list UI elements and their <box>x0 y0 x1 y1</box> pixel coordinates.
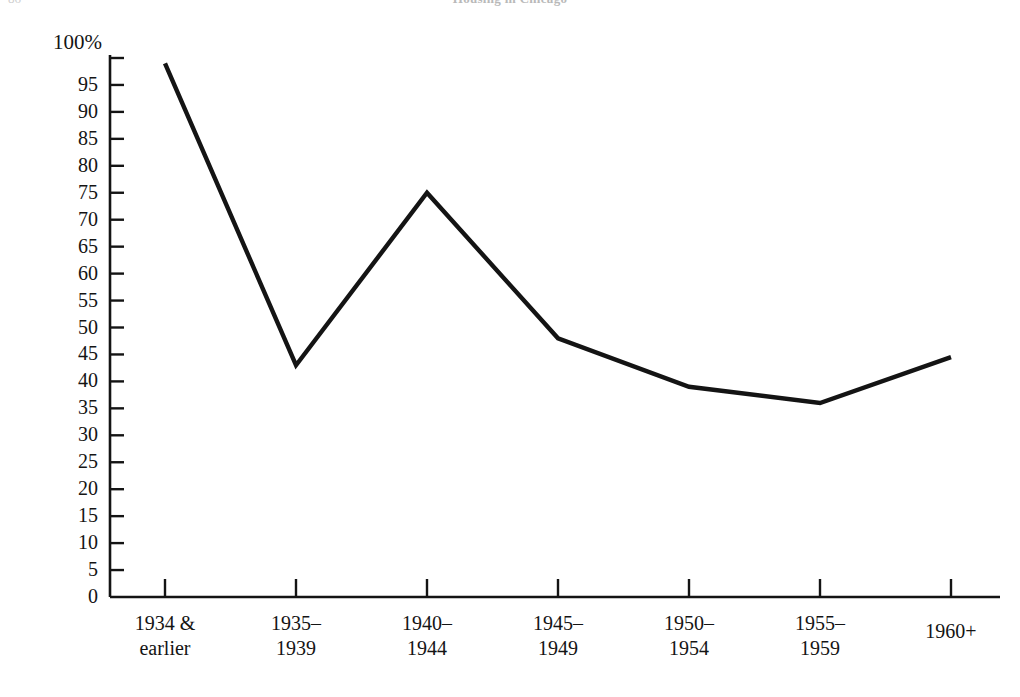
y-axis-tick-label: 95 <box>24 74 98 94</box>
x-axis-tick-label: 1934 &earlier <box>90 611 240 661</box>
x-axis-tick-label-line2: 1954 <box>614 636 764 661</box>
x-axis-tick-label-line2: 1939 <box>221 636 371 661</box>
x-axis-tick-label: 1950–1954 <box>614 611 764 661</box>
x-axis-tick-label-line1: 1960+ <box>925 620 976 642</box>
x-axis-tick-label-line1: 1950– <box>664 612 714 634</box>
x-axis-tick-label-line2: 1949 <box>483 636 633 661</box>
chart-plot-area <box>0 0 1020 697</box>
y-axis-tick-label: 100% <box>28 32 102 52</box>
y-axis-tick-label: 70 <box>24 209 98 229</box>
x-axis-tick-label: 1940–1944 <box>352 611 502 661</box>
y-axis-tick-label: 60 <box>24 263 98 283</box>
y-axis-tick-label: 10 <box>24 532 98 552</box>
x-axis-tick-label: 1960+ <box>876 611 1020 644</box>
y-axis-tick-label: 90 <box>24 101 98 121</box>
y-axis-tick-label: 50 <box>24 317 98 337</box>
x-axis-tick-label-line1: 1935– <box>271 612 321 634</box>
line-chart: 0510152025303540455055606570758085909510… <box>0 0 1020 697</box>
x-axis-ticks <box>165 579 951 597</box>
x-axis-tick-label: 1935–1939 <box>221 611 371 661</box>
y-axis-tick-label: 0 <box>24 586 98 606</box>
x-axis-tick-label-line2: earlier <box>90 636 240 661</box>
y-axis-tick-label: 25 <box>24 451 98 471</box>
y-axis-tick-label: 80 <box>24 155 98 175</box>
y-axis-tick-label: 55 <box>24 290 98 310</box>
x-axis-tick-label-line1: 1955– <box>795 612 845 634</box>
y-axis-tick-label: 30 <box>24 424 98 444</box>
y-axis-tick-label: 40 <box>24 370 98 390</box>
y-axis-tick-label: 20 <box>24 478 98 498</box>
y-axis-tick-label: 15 <box>24 505 98 525</box>
y-axis-tick-label: 65 <box>24 236 98 256</box>
x-axis-tick-label: 1945–1949 <box>483 611 633 661</box>
x-axis-tick-label-line1: 1934 & <box>135 612 196 634</box>
y-axis-tick-label: 45 <box>24 343 98 363</box>
y-axis-tick-label: 35 <box>24 397 98 417</box>
x-axis-tick-label: 1955–1959 <box>745 611 895 661</box>
x-axis-tick-label-line1: 1945– <box>533 612 583 634</box>
data-series-line <box>165 63 951 403</box>
x-axis-tick-label-line2: 1944 <box>352 636 502 661</box>
y-axis-tick-label: 75 <box>24 182 98 202</box>
x-axis-tick-label-line1: 1940– <box>402 612 452 634</box>
chart-axes <box>110 55 1000 597</box>
y-axis-tick-label: 5 <box>24 559 98 579</box>
y-axis-tick-label: 85 <box>24 128 98 148</box>
x-axis-tick-label-line2: 1959 <box>745 636 895 661</box>
y-axis-ticks <box>110 58 124 570</box>
